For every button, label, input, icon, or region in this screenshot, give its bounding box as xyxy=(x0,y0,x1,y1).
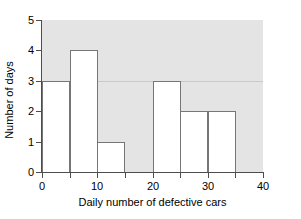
x-tick-label: 40 xyxy=(248,180,278,192)
histogram-figure: Number of days 012345 010203040 Daily nu… xyxy=(0,0,301,219)
y-tick-mark xyxy=(36,50,41,51)
x-tick-mark xyxy=(263,173,264,178)
x-tick-mark xyxy=(235,173,236,178)
y-tick-mark xyxy=(36,20,41,21)
histogram-bar xyxy=(70,50,98,172)
histogram-bar xyxy=(153,81,181,172)
x-axis-title: Daily number of defective cars xyxy=(42,196,263,209)
x-tick-mark xyxy=(153,173,154,178)
x-tick-label: 20 xyxy=(138,180,168,192)
y-tick-label: 4 xyxy=(20,45,34,56)
y-tick-mark xyxy=(36,81,41,82)
x-tick-label: 0 xyxy=(27,180,57,192)
histogram-bar xyxy=(180,111,208,172)
x-tick-mark xyxy=(42,173,43,178)
x-tick-mark xyxy=(180,173,181,178)
x-tick-mark xyxy=(97,173,98,178)
x-tick-mark xyxy=(125,173,126,178)
y-tick-mark xyxy=(36,111,41,112)
y-tick-label: 0 xyxy=(20,167,34,178)
y-axis-spine xyxy=(41,20,42,173)
y-tick-label: 5 xyxy=(20,15,34,26)
histogram-bar xyxy=(42,81,70,172)
x-tick-mark xyxy=(208,173,209,178)
histogram-bar xyxy=(97,142,125,172)
y-axis-title: Number of days xyxy=(2,14,16,186)
y-tick-label: 3 xyxy=(20,76,34,87)
histogram-bar xyxy=(208,111,236,172)
y-tick-label: 2 xyxy=(20,106,34,117)
x-tick-label: 10 xyxy=(82,180,112,192)
x-tick-mark xyxy=(70,173,71,178)
y-tick-mark xyxy=(36,142,41,143)
x-tick-label: 30 xyxy=(193,180,223,192)
y-tick-label: 1 xyxy=(20,137,34,148)
y-tick-mark xyxy=(36,172,41,173)
